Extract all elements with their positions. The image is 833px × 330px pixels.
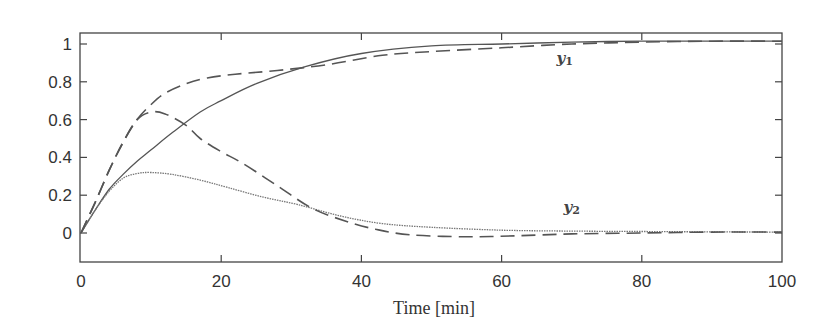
plot-frame xyxy=(80,33,782,262)
curve-y2-dotted xyxy=(81,172,782,233)
curve-label-y2: y2 xyxy=(563,198,580,217)
y-tick-label: 0.4 xyxy=(48,148,72,167)
x-tick-label: 80 xyxy=(632,272,651,291)
curve-y2-dashed xyxy=(81,112,782,237)
y-tick-label: 0.8 xyxy=(48,73,72,92)
x-tick-label: 100 xyxy=(768,272,796,291)
curve-y1-solid xyxy=(81,41,782,233)
curve-y1-dashed xyxy=(81,41,782,233)
y-tick-label: 0 xyxy=(63,224,72,243)
line-chart: 02040608010000.20.40.60.81 y1y2 Time [mi… xyxy=(0,0,833,330)
x-tick-label: 40 xyxy=(352,272,371,291)
x-tick-label: 20 xyxy=(212,272,231,291)
axis-tick-labels: 02040608010000.20.40.60.81 xyxy=(48,35,796,291)
x-tick-label: 0 xyxy=(76,272,85,291)
x-axis-title: Time [min] xyxy=(393,298,475,318)
curve-label-y1: y1 xyxy=(556,49,573,68)
curve-annotations: y1y2 xyxy=(556,49,580,217)
y-tick-label: 0.2 xyxy=(48,186,72,205)
axis-ticks xyxy=(80,33,782,262)
y-tick-label: 1 xyxy=(63,35,72,54)
data-curves xyxy=(81,41,782,237)
x-tick-label: 60 xyxy=(492,272,511,291)
y-tick-label: 0.6 xyxy=(48,111,72,130)
